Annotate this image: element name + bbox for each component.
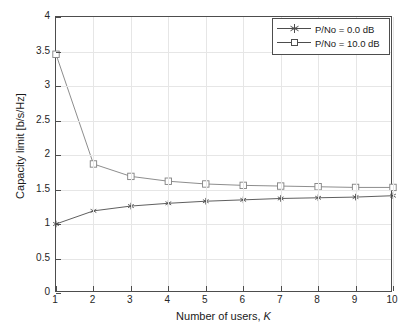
x-axis-tick	[356, 286, 357, 291]
x-axis-tick	[318, 286, 319, 291]
x-tick-label: 9	[352, 294, 358, 306]
y-tick-label: 2	[44, 149, 50, 159]
gridline-vertical	[131, 17, 132, 291]
square-marker-icon	[289, 37, 300, 48]
plot-area	[55, 16, 392, 292]
gridline-vertical	[93, 17, 94, 291]
legend-label-1: P/No = 10.0 dB	[311, 38, 380, 49]
y-axis-tick	[56, 190, 61, 191]
x-axis-tick	[168, 286, 169, 291]
gridline-vertical	[393, 17, 394, 291]
x-axis-title-text: Number of users,	[176, 310, 263, 322]
gridline-vertical	[168, 17, 169, 291]
y-tick-label: 0.5	[36, 253, 50, 263]
gridline-horizontal	[56, 224, 391, 225]
gridline-vertical	[243, 17, 244, 291]
y-axis-tick	[56, 224, 61, 225]
y-axis-tick	[56, 259, 61, 260]
x-tick-label: 3	[127, 294, 133, 306]
legend-sample-1	[277, 37, 311, 49]
y-tick-label: 3	[44, 80, 50, 90]
gridline-horizontal	[56, 155, 391, 156]
y-axis-tick	[56, 52, 61, 53]
y-axis-tick	[56, 86, 61, 87]
x-axis-tick	[56, 286, 57, 291]
y-tick-label: 4	[44, 11, 50, 21]
gridline-horizontal	[56, 259, 391, 260]
x-tick-label: 2	[90, 294, 96, 306]
legend-item-1: P/No = 10.0 dB	[277, 36, 385, 50]
y-tick-label: 0	[44, 287, 50, 297]
x-tick-label: 1	[52, 294, 58, 306]
series-line-0	[56, 196, 393, 224]
gridline-horizontal	[56, 190, 391, 191]
x-axis-tick	[243, 286, 244, 291]
x-axis-tick	[131, 286, 132, 291]
legend-sample-0	[277, 23, 311, 35]
x-axis-tick	[206, 286, 207, 291]
x-tick-label: 6	[239, 294, 245, 306]
gridline-vertical	[356, 17, 357, 291]
x-tick-label: 4	[165, 294, 171, 306]
x-axis-title: Number of users, K	[55, 310, 392, 322]
gridline-vertical	[281, 17, 282, 291]
y-tick-label: 1.5	[36, 184, 50, 194]
x-tick-label-group: 12345678910	[55, 294, 392, 308]
gridline-horizontal	[56, 86, 391, 87]
gridline-horizontal	[56, 121, 391, 122]
series-0	[53, 192, 396, 227]
gridline-vertical	[318, 17, 319, 291]
x-axis-tick	[393, 286, 394, 291]
x-axis-tick	[93, 286, 94, 291]
y-tick-label: 3.5	[36, 46, 50, 56]
legend-label-0: P/No = 0.0 dB	[311, 24, 374, 35]
chart-figure: Capacity limit [b/s/Hz] 00.511.522.533.5…	[0, 0, 410, 333]
x-tick-label: 5	[202, 294, 208, 306]
y-axis-tick	[56, 121, 61, 122]
y-axis-tick	[56, 17, 61, 18]
legend-item-0: P/No = 0.0 dB	[277, 22, 385, 36]
x-tick-label: 7	[277, 294, 283, 306]
legend: P/No = 0.0 dB P/No = 10.0 dB	[272, 18, 390, 55]
x-tick-label: 8	[314, 294, 320, 306]
y-axis-tick	[56, 155, 61, 156]
gridline-vertical	[206, 17, 207, 291]
x-axis-title-variable: K	[264, 310, 271, 322]
y-tick-label: 1	[44, 218, 50, 228]
y-tick-label: 2.5	[36, 115, 50, 125]
y-tick-label-group: 00.511.522.533.54	[20, 16, 50, 292]
star-marker-icon	[289, 23, 300, 34]
x-axis-tick	[281, 286, 282, 291]
x-tick-label: 10	[386, 294, 397, 306]
